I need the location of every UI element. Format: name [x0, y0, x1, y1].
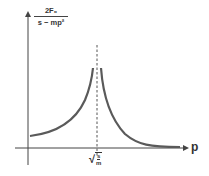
y-label-denominator: s − mp² — [34, 17, 68, 27]
y-label-numerator: 2F₀ — [34, 6, 68, 17]
curve-left-branch — [30, 68, 93, 136]
resonance-tick-label: √ s m — [89, 152, 102, 166]
y-axis-label: 2F₀ s − mp² — [34, 6, 68, 27]
x-axis-label: p — [191, 140, 198, 154]
tick-fraction: s m — [95, 152, 102, 166]
curve-right-branch — [101, 68, 180, 147]
resonance-diagram — [0, 0, 209, 176]
